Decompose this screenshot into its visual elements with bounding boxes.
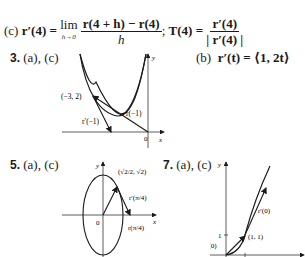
problem-3-parts: (a), (c) — [23, 50, 58, 65]
problem-3-number: 3. — [10, 51, 20, 65]
problem-7-header: 7. (a), (c) — [163, 157, 212, 173]
unit-tangent-lhs: T(4) = — [169, 23, 204, 39]
problem-5-parts: (a), (c) — [23, 157, 58, 172]
r-label: r(π/4) — [128, 224, 145, 232]
problem-5-figure: (√2/2, √2) r′(π/4) r(π/4) 0 x y — [60, 160, 160, 257]
unit-tangent-numerator: r′(4) — [210, 16, 239, 32]
problem-3-header: 3. (a), (c) — [10, 50, 59, 66]
vector-r — [103, 187, 117, 215]
origin-label: 0 — [96, 219, 100, 227]
tick-label: 1 — [218, 232, 222, 240]
point-label: (1, 1) — [248, 233, 264, 241]
problem-3-part-b: (b) r′(t) = ⟨1, 2t⟩ — [196, 50, 290, 66]
x-axis-label: x — [152, 218, 157, 226]
rprime-label: r′(π/4) — [129, 194, 147, 202]
limit-operator: lim h→0 — [60, 19, 77, 43]
rprime-label: r′(0) — [258, 207, 271, 215]
vector-rprime-label: r′(−1) — [82, 117, 100, 126]
vector-r-label: r(−1) — [126, 109, 142, 118]
part-b-expression: r′(t) = ⟨1, 2t⟩ — [218, 50, 290, 65]
y-axis-label: y — [151, 54, 156, 62]
unit-tangent-fraction: r′(4) | r′(4) | — [206, 16, 243, 47]
part-c-formula: (c) r′(4) = lim h→0 r(4 + h) − r(4) h ; … — [4, 14, 243, 48]
y-axis-label: y — [95, 162, 100, 170]
problem-7-number: 7. — [163, 158, 173, 172]
problem-7-parts: (a), (c) — [176, 157, 211, 172]
problem-7-figure: y r′(0) (1, 1) r(0) 1 — [210, 158, 305, 257]
origin-label: 0 — [144, 135, 148, 143]
problem-3-figure: (−3, 2) r(−1) r′(−1) 0 x y — [60, 52, 170, 150]
part-c-label: (c) — [4, 23, 18, 39]
rprime-4-lhs: r′(4) = — [22, 23, 57, 39]
x-axis-label: x — [158, 136, 163, 144]
separator: ; — [162, 23, 166, 39]
lim-subscript: h→0 — [62, 31, 76, 43]
unit-tangent-denominator: | r′(4) | — [206, 32, 243, 47]
y-axis-label: y — [217, 161, 222, 169]
parabola-curve — [80, 54, 146, 114]
vector-r — [226, 236, 245, 255]
problem-5-header: 5. (a), (c) — [10, 157, 59, 173]
part-b-label: (b) — [196, 50, 211, 65]
lim-word: lim — [60, 19, 77, 31]
problem-5-number: 5. — [10, 158, 20, 172]
point-label: (√2/2, √2) — [118, 168, 147, 176]
difference-quotient-denominator: h — [118, 32, 125, 47]
difference-quotient: r(4 + h) − r(4) h — [81, 16, 162, 47]
r-label: r(0) — [210, 242, 217, 250]
difference-quotient-numerator: r(4 + h) − r(4) — [81, 16, 162, 32]
point-label: (−3, 2) — [61, 92, 82, 101]
